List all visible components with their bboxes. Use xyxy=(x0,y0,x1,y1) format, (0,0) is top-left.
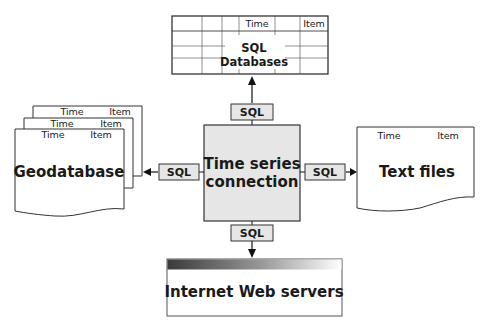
internet-web-servers-box: Internet Web servers xyxy=(164,259,343,316)
sql-databases-table: Time Item SQL Databases xyxy=(172,16,328,74)
sql-db-col-item: Item xyxy=(303,18,325,29)
geo-col-item-1: Item xyxy=(109,106,131,117)
web-servers-label: Internet Web servers xyxy=(164,283,343,301)
svg-text:SQL: SQL xyxy=(240,106,264,119)
text-col-time: Time xyxy=(376,130,400,141)
center-label-2: connection xyxy=(206,173,299,191)
geodatabase-label: Geodatabase xyxy=(14,163,125,181)
sql-connector-bottom: SQL xyxy=(231,225,273,241)
svg-text:SQL: SQL xyxy=(313,166,337,179)
arrow-left xyxy=(143,168,158,176)
geo-col-item-2: Item xyxy=(100,118,122,129)
time-series-connection-box: Time series connection xyxy=(203,125,300,221)
geo-col-time-3: Time xyxy=(40,129,64,140)
sql-db-col-time: Time xyxy=(244,18,268,29)
center-label-1: Time series xyxy=(203,155,300,173)
geo-col-time-1: Time xyxy=(59,106,83,117)
arrow-down xyxy=(248,241,256,258)
geo-col-item-3: Item xyxy=(90,129,112,140)
text-col-item: Item xyxy=(437,130,459,141)
sql-connector-right: SQL xyxy=(305,164,345,180)
time-series-diagram: Time Item SQL Databases SQL Time series … xyxy=(0,0,489,334)
text-files-label: Text files xyxy=(379,163,455,181)
arrow-up xyxy=(248,76,256,103)
svg-text:SQL: SQL xyxy=(167,166,191,179)
text-files-doc: Time Item Text files xyxy=(357,127,474,211)
sql-connector-left: SQL xyxy=(159,164,199,180)
svg-text:SQL: SQL xyxy=(240,227,264,240)
sql-db-label-1: SQL xyxy=(241,41,267,55)
sql-db-label-2: Databases xyxy=(220,55,288,69)
geodatabase-stack: Time Item Time Item Time Item Geodatabas… xyxy=(14,106,142,216)
geo-col-time-2: Time xyxy=(49,118,73,129)
arrow-right xyxy=(346,168,357,176)
sql-connector-top: SQL xyxy=(231,104,273,120)
